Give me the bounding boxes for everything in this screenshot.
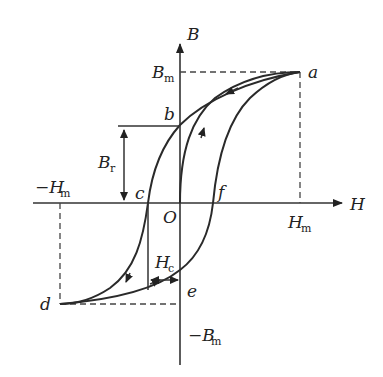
initial-curve — [180, 72, 300, 203]
hysteresis-diagram: B H O a b c d e f B m −B m H m −H m B r … — [0, 0, 383, 377]
point-a-label: a — [308, 62, 318, 82]
svg-text:m: m — [60, 187, 71, 200]
h-axis-label: H — [349, 194, 366, 214]
svg-text:m: m — [211, 335, 222, 348]
svg-text:c: c — [168, 262, 174, 275]
svg-text:r: r — [110, 162, 116, 175]
svg-text:m: m — [301, 222, 312, 235]
hc-label: H c — [154, 252, 174, 275]
br-label: B r — [97, 152, 116, 175]
svg-text:B: B — [151, 62, 165, 82]
svg-text:m: m — [164, 72, 175, 85]
b-axis-label: B — [186, 24, 200, 44]
hm-label: H m — [287, 212, 312, 235]
point-d-label: d — [40, 294, 51, 314]
origin-label: O — [163, 207, 177, 227]
point-c-label: c — [135, 183, 145, 203]
neg-hm-label: −H m — [35, 177, 71, 200]
point-e-label: e — [187, 281, 197, 301]
svg-text:B: B — [97, 152, 111, 172]
neg-bm-label: −B m — [188, 325, 222, 348]
point-f-label: f — [216, 182, 227, 202]
point-b-label: b — [164, 104, 175, 124]
bm-label: B m — [151, 62, 175, 85]
